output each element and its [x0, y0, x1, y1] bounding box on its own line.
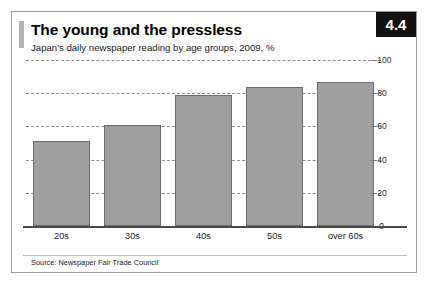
y-tick-label: --- 60	[371, 121, 401, 131]
bar-slot	[168, 60, 239, 226]
x-tick-label: 40s	[168, 231, 239, 241]
bar	[317, 82, 374, 226]
x-tick-label: over 60s	[310, 231, 381, 241]
x-tick-label: 30s	[97, 231, 168, 241]
bar	[33, 141, 90, 226]
x-tick-label: 50s	[239, 231, 310, 241]
y-tick-value: 100	[377, 55, 391, 65]
y-tick-value: 60	[377, 121, 387, 131]
bar-slot	[97, 60, 168, 226]
footer-divider	[23, 255, 407, 256]
plot-area	[26, 60, 381, 226]
x-tick-label: 20s	[26, 231, 97, 241]
y-tick-value: 40	[377, 155, 387, 165]
bar	[175, 95, 232, 226]
y-tick-label: --- 80	[371, 88, 401, 98]
bar-slot	[26, 60, 97, 226]
source-note: Source: Newspaper Fair Trade Council	[31, 258, 158, 267]
chart-subtitle: Japan's daily newspaper reading by age g…	[31, 42, 274, 53]
y-tick-label: --- 40	[371, 155, 401, 165]
figure-number-badge: 4.4	[376, 12, 416, 37]
title-accent-bar	[19, 21, 24, 48]
bar-slot	[310, 60, 381, 226]
chart-figure: 4.4 The young and the pressless Japan's …	[11, 11, 417, 273]
bar	[104, 125, 161, 226]
bar-series	[26, 60, 381, 226]
bar-slot	[239, 60, 310, 226]
y-tick-label: --- 100	[371, 55, 401, 65]
x-axis-line	[23, 226, 407, 228]
y-tick-value: 20	[377, 188, 387, 198]
y-tick-value: 80	[377, 88, 387, 98]
bar	[246, 87, 303, 226]
chart-title: The young and the pressless	[31, 21, 242, 39]
y-tick-label: --- 20	[371, 188, 401, 198]
x-axis-tick-labels: 20s30s40s50sover 60s	[26, 231, 381, 241]
